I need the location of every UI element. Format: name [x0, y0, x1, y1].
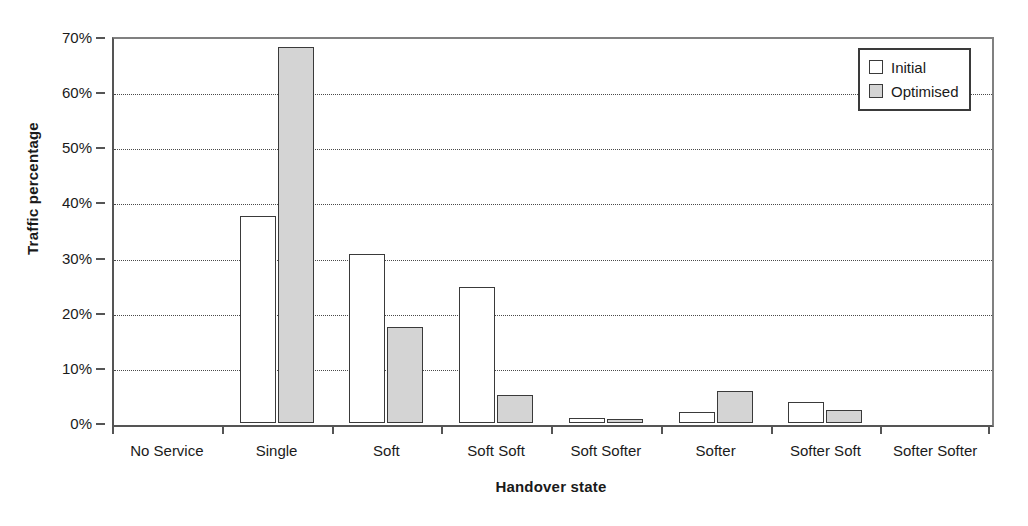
bar-optimised	[826, 410, 862, 423]
y-tick-mark	[96, 258, 105, 260]
y-tick-mark	[96, 92, 105, 94]
legend-item: Initial	[869, 55, 959, 79]
x-tick-mark	[880, 425, 882, 434]
y-tick-mark	[96, 147, 105, 149]
bar-initial	[240, 216, 276, 423]
y-tick-mark	[96, 313, 105, 315]
y-axis-ticks: 0%10%20%30%40%50%60%70%	[0, 0, 112, 526]
legend-swatch-initial	[869, 60, 883, 74]
x-tick-mark	[112, 425, 114, 434]
bar-optimised	[387, 327, 423, 424]
x-tick-label: No Service	[112, 440, 222, 461]
legend-swatch-optimised	[869, 84, 883, 98]
legend: InitialOptimised	[858, 48, 971, 111]
legend-item: Optimised	[869, 79, 959, 103]
bar-initial	[569, 418, 605, 424]
bar-initial	[349, 254, 385, 423]
legend-label: Optimised	[891, 84, 959, 99]
x-tick-mark	[332, 425, 334, 434]
y-tick-label: 50%	[62, 140, 92, 155]
bar-chart: Traffic percentage 0%10%20%30%40%50%60%7…	[0, 0, 1028, 526]
bar-initial	[679, 412, 715, 423]
x-tick-mark	[222, 425, 224, 434]
y-tick-mark	[96, 202, 105, 204]
x-tick-mark	[988, 425, 990, 434]
x-tick-mark	[551, 425, 553, 434]
y-tick-label: 10%	[62, 360, 92, 375]
x-tick-label: Soft	[332, 440, 442, 461]
x-tick-label: Softer	[661, 440, 771, 461]
y-tick-label: 60%	[62, 85, 92, 100]
x-tick-mark	[771, 425, 773, 434]
y-tick-mark	[96, 423, 105, 425]
x-axis-title: Handover state	[112, 478, 990, 495]
y-tick-mark	[96, 368, 105, 370]
x-tick-mark	[661, 425, 663, 434]
y-tick-label: 0%	[70, 416, 92, 431]
x-tick-label: Softer Softer	[880, 440, 990, 461]
bar-initial	[788, 402, 824, 424]
bar-optimised	[607, 419, 643, 423]
x-axis-ticks	[112, 425, 990, 437]
y-tick-label: 30%	[62, 250, 92, 265]
bar-optimised	[497, 395, 533, 423]
y-tick-mark	[96, 37, 105, 39]
y-tick-label: 70%	[62, 30, 92, 45]
x-tick-label: Softer Soft	[771, 440, 881, 461]
x-tick-label: Soft Softer	[551, 440, 661, 461]
bar-optimised	[717, 391, 753, 423]
x-tick-mark	[441, 425, 443, 434]
x-tick-label: Single	[222, 440, 332, 461]
bar-initial	[459, 287, 495, 423]
y-tick-label: 20%	[62, 305, 92, 320]
legend-label: Initial	[891, 60, 926, 75]
y-tick-label: 40%	[62, 195, 92, 210]
x-tick-label: Soft Soft	[441, 440, 551, 461]
bar-optimised	[278, 47, 314, 423]
